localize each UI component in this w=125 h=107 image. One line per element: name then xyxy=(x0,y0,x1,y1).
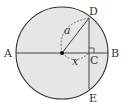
diagram-canvas: A B C D E a x xyxy=(0,0,125,107)
label-distance-x: x xyxy=(72,55,79,68)
label-radius-a: a xyxy=(64,24,71,37)
circle-diagram: A B C D E a x xyxy=(0,0,125,107)
label-b-point: B xyxy=(111,47,119,60)
label-d-point: D xyxy=(89,5,98,18)
label-c-point: C xyxy=(90,54,98,67)
center-point xyxy=(60,51,64,55)
label-a-point: A xyxy=(3,47,13,60)
label-e-point: E xyxy=(89,92,97,105)
